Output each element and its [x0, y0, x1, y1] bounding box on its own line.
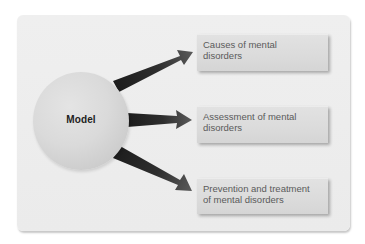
arrow-to-prevention [113, 146, 192, 191]
arrow-to-assessment [127, 110, 192, 129]
outcome-box-assessment: Assessment of mental disorders [197, 106, 328, 143]
model-label: Model [33, 114, 129, 125]
outcome-line: disorders [203, 122, 322, 133]
arrow-to-causes [113, 50, 193, 92]
outcome-line: disorders [203, 50, 322, 61]
outcome-box-causes: Causes of mental disorders [197, 34, 328, 71]
outcome-line: Assessment of mental [203, 111, 322, 122]
outcome-box-prevention-treatment: Prevention and treatment of mental disor… [197, 178, 328, 214]
outcome-line: of mental disorders [203, 194, 322, 205]
outcome-line: Causes of mental [203, 39, 322, 50]
model-circle: Model [33, 72, 129, 170]
outcome-line: Prevention and treatment [203, 183, 322, 194]
